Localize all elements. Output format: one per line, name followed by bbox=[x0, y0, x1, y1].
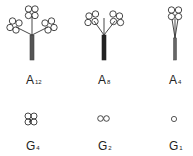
label-letter: G bbox=[26, 139, 35, 153]
label-subscript: 8 bbox=[107, 79, 110, 85]
label-subscript: 12 bbox=[35, 79, 42, 85]
stem bbox=[102, 35, 106, 60]
flower-cluster bbox=[168, 7, 181, 20]
label-letter: A bbox=[98, 73, 106, 87]
label-letter: A bbox=[169, 73, 177, 87]
flower-cluster-top bbox=[25, 6, 38, 19]
figure-g1 bbox=[171, 116, 176, 121]
stem bbox=[174, 38, 177, 60]
figure-a8 bbox=[85, 11, 124, 60]
label-g4: G4 bbox=[26, 140, 40, 154]
label-letter: G bbox=[98, 139, 107, 153]
label-g2: G2 bbox=[98, 140, 112, 154]
flower-cluster-right bbox=[42, 18, 57, 33]
flower-cluster-right bbox=[110, 11, 124, 26]
label-subscript: 1 bbox=[179, 145, 182, 151]
flower-cluster-left bbox=[7, 18, 22, 33]
branch-left bbox=[94, 21, 104, 35]
label-a12: A12 bbox=[26, 74, 42, 88]
flower-cluster-left bbox=[85, 11, 99, 26]
label-subscript: 4 bbox=[36, 145, 39, 151]
label-a4: A4 bbox=[169, 74, 181, 88]
figure-a4 bbox=[168, 7, 181, 60]
label-g1: G1 bbox=[169, 140, 183, 154]
figure-g4 bbox=[25, 113, 37, 125]
label-letter: G bbox=[169, 139, 178, 153]
figure-a12 bbox=[7, 6, 57, 60]
label-letter: A bbox=[26, 73, 34, 87]
stem bbox=[30, 35, 34, 60]
branch-right bbox=[104, 21, 115, 35]
label-subscript: 4 bbox=[178, 79, 181, 85]
figure-g2 bbox=[98, 116, 110, 122]
label-subscript: 2 bbox=[108, 145, 111, 151]
label-a8: A8 bbox=[98, 74, 110, 88]
